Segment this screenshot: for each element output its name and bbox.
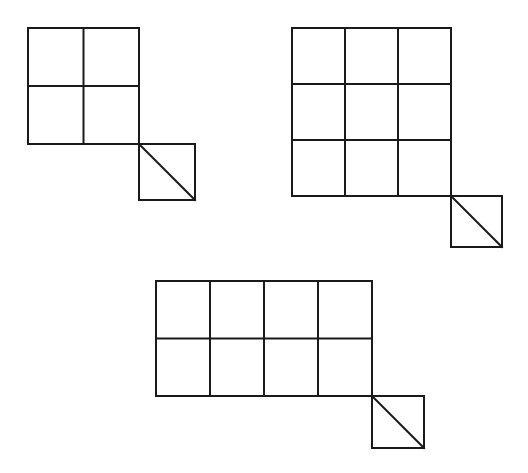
figure-3x3 [292,28,502,247]
figure-2x2 [28,28,195,200]
corner-diagonal [451,196,502,247]
corner-diagonal [139,144,195,200]
diagram-canvas [0,0,528,473]
corner-diagonal [372,396,424,448]
figure-4x2 [156,281,424,448]
grid-border [292,28,451,196]
